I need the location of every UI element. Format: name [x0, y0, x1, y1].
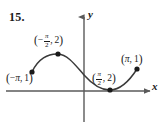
point-right-endpoint [134, 66, 139, 71]
fraction-numerator: π [97, 71, 103, 79]
paren-close: ) [112, 73, 116, 85]
paren-open: ( [92, 73, 96, 85]
point-label-left-endpoint: ( − π , 1 ) [6, 73, 33, 85]
point-label-local-min: ( π 2 , 2 ) [92, 71, 116, 87]
fraction-numerator: π [44, 33, 50, 41]
point-local-min [107, 87, 112, 92]
y-axis-label: y [88, 9, 93, 20]
fraction-denominator: 2 [97, 80, 103, 88]
point-label-local-max: ( − π 2 , 2 ) [34, 33, 63, 49]
point-label-right-endpoint: ( π , 1 ) [121, 54, 143, 66]
x-axis-label: x [152, 81, 158, 92]
paren-close: ) [29, 73, 33, 85]
fraction-denominator: 2 [44, 42, 50, 50]
problem-number: 15. [9, 11, 25, 23]
minus-sign: − [38, 36, 43, 46]
paren-close: ) [59, 35, 63, 47]
figure-container: 15. y x ( − π 2 , 2 ) ( − π , 1 ) [0, 0, 165, 128]
fraction-pi-over-2: π 2 [44, 33, 50, 49]
fraction-pi-over-2: π 2 [96, 71, 102, 87]
paren-close: ) [139, 54, 143, 66]
point-local-max [55, 51, 60, 56]
